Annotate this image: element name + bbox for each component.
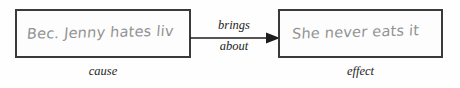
effect-box[interactable]: She never eats it [278, 9, 443, 58]
connector-label-line2: about [188, 39, 280, 54]
cause-box[interactable]: Bec. Jenny hates liv [15, 9, 191, 58]
cause-effect-diagram: Bec. Jenny hates liv brings about She ne… [0, 0, 460, 88]
connector-arrow-group: brings about [188, 20, 280, 58]
effect-caption: effect [278, 64, 443, 79]
effect-handwritten-text: She never eats it [280, 22, 420, 42]
cause-handwritten-text: Bec. Jenny hates liv [16, 22, 174, 41]
cause-caption: cause [15, 64, 191, 79]
